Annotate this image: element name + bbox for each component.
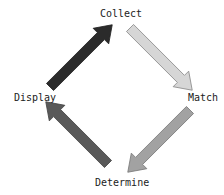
cycle-diagram: Collect Match Determine Display	[0, 0, 224, 195]
arrow-display-to-collect	[42, 17, 120, 95]
arrow-match-to-determine	[120, 102, 198, 180]
node-display: Display	[14, 92, 56, 104]
node-determine: Determine	[95, 177, 149, 189]
arrow-collect-to-match	[122, 20, 200, 98]
node-collect: Collect	[100, 8, 142, 20]
node-match: Match	[188, 92, 218, 104]
arrow-determine-to-display	[38, 94, 116, 172]
